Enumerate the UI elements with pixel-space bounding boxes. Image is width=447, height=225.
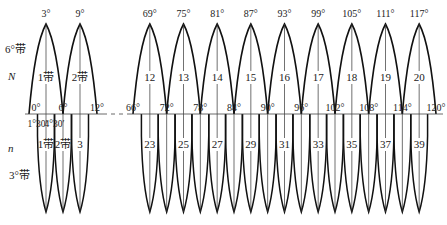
boundary-longitude-label: 72°	[160, 102, 174, 113]
three-degree-zone-number: 35	[346, 138, 358, 150]
three-degree-zone-number: 31	[279, 138, 290, 150]
central-meridian-label: 3°	[42, 8, 51, 19]
central-meridian-label: 117°	[410, 8, 429, 19]
central-meridian-label: 87°	[244, 8, 258, 19]
central-meridian-label: 75°	[177, 8, 191, 19]
central-meridian-label: 69°	[143, 8, 157, 19]
three-degree-band-label: 3°带	[9, 169, 30, 181]
six-degree-zone-number: 17	[313, 71, 325, 83]
six-degree-zone-number: 20	[414, 71, 426, 83]
boundary-longitude-label: 120°	[427, 102, 446, 113]
six-degree-zone-number: 15	[245, 71, 257, 83]
three-degree-boundary-label: 4°30′	[44, 119, 64, 129]
northing-label-N: N	[7, 70, 16, 82]
six-degree-zone-number: 14	[212, 71, 224, 83]
central-meridian-label: 9°	[76, 8, 85, 19]
three-degree-zone-number: 23	[144, 138, 156, 150]
boundary-longitude-label: 66°	[126, 102, 140, 113]
three-degree-zone-number: 3	[77, 138, 83, 150]
three-degree-zones	[38, 114, 428, 212]
boundary-longitude-label: 102°	[326, 102, 345, 113]
boundary-longitude-label: 114°	[393, 102, 412, 113]
boundary-longitude-label: 90°	[261, 102, 275, 113]
six-degree-zones	[29, 24, 436, 114]
three-degree-zone-number: 2带	[55, 138, 72, 150]
six-degree-band-label: 6°带	[5, 43, 26, 55]
three-degree-zone-number: 27	[212, 138, 224, 150]
central-meridian-label: 111°	[376, 8, 394, 19]
six-degree-zone-number: 1带	[38, 71, 55, 83]
three-degree-zone-number: 37	[380, 138, 392, 150]
boundary-longitude-label: 96°	[294, 102, 308, 113]
six-degree-zone-number: 12	[144, 71, 155, 83]
six-degree-zone-number: 2带	[72, 71, 89, 83]
boundary-longitude-label: 78°	[193, 102, 207, 113]
three-degree-zone-number: 25	[178, 138, 190, 150]
central-meridian-label: 81°	[210, 8, 224, 19]
boundary-longitude-label: 84°	[227, 102, 241, 113]
three-degree-zone-number: 29	[245, 138, 257, 150]
northing-label-n: n	[8, 142, 14, 154]
central-meridian-label: 93°	[278, 8, 292, 19]
three-degree-zone-number: 33	[313, 138, 325, 150]
boundary-longitude-label: 6°	[59, 102, 68, 113]
six-degree-zone-number: 18	[346, 71, 358, 83]
boundary-longitude-label: 108°	[359, 102, 378, 113]
six-degree-zone-number: 16	[279, 71, 291, 83]
boundary-longitude-label: 0°	[32, 102, 41, 113]
three-degree-zone-number: 1带	[38, 138, 55, 150]
three-degree-zone-number: 39	[414, 138, 426, 150]
six-degree-zone-number: 19	[380, 71, 392, 83]
boundary-longitude-label: 12°	[90, 102, 104, 113]
central-meridian-label: 99°	[311, 8, 325, 19]
projection-zone-diagram: 6°带 N n 3°带 3°1带9°2带69°1275°1381°1487°15…	[0, 0, 447, 225]
central-meridian-label: 105°	[342, 8, 361, 19]
six-degree-zone-number: 13	[178, 71, 190, 83]
